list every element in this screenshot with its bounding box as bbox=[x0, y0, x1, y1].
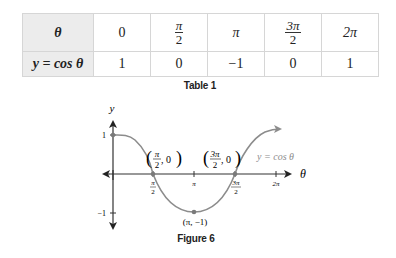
value: , 0 bbox=[161, 154, 171, 165]
tick-denominator: 2 bbox=[151, 188, 155, 196]
label-3pi-over-2-zero: ( 3π 2 , 0 ) bbox=[203, 148, 241, 170]
tick-denominator: 2 bbox=[234, 188, 238, 196]
open-paren: ( bbox=[203, 148, 209, 169]
close-paren: ) bbox=[235, 148, 241, 169]
point-0-1 bbox=[111, 133, 116, 138]
figure-caption: Figure 6 bbox=[177, 233, 214, 244]
y-tick-1: 1 bbox=[102, 131, 106, 140]
cosine-graph: y θ 1 −1 π 2 π 3π 2 2π ( π 2 , 0 ) ( 3π … bbox=[0, 0, 396, 258]
x-tick-pi-over-2: π 2 bbox=[150, 179, 156, 196]
value: , 0 bbox=[221, 154, 231, 165]
curve-label: y = cos θ bbox=[256, 151, 294, 162]
cosine-curve bbox=[113, 129, 280, 212]
y-axis-label: y bbox=[109, 102, 115, 114]
tick-numerator: π bbox=[151, 179, 155, 187]
denominator: 2 bbox=[213, 160, 218, 170]
close-paren: ) bbox=[176, 148, 182, 169]
numerator: π bbox=[155, 149, 160, 159]
point-pi-over-2 bbox=[151, 172, 156, 177]
point-pi-neg1 bbox=[192, 210, 197, 215]
open-paren: ( bbox=[146, 148, 152, 169]
point-3pi-over-2 bbox=[233, 172, 238, 177]
x-tick-2pi: 2π bbox=[272, 180, 280, 188]
label-pi-over-2-zero: ( π 2 , 0 ) bbox=[146, 148, 182, 170]
x-axis-label: θ bbox=[300, 167, 306, 181]
numerator: 3π bbox=[209, 149, 220, 159]
denominator: 2 bbox=[155, 160, 160, 170]
y-tick-neg1: −1 bbox=[97, 209, 106, 218]
x-tick-pi: π bbox=[192, 180, 196, 188]
label-pi-neg1: (π, −1) bbox=[183, 217, 208, 227]
